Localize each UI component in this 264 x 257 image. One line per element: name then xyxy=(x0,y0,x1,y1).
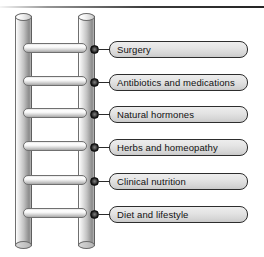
step-label-box-clinical-nutrition: Clinical nutrition xyxy=(109,173,248,190)
step-label-box-diet-and-lifestyle: Diet and lifestyle xyxy=(109,206,248,223)
ladder-rung xyxy=(23,43,87,53)
rail-cap-bottom-left xyxy=(15,241,32,249)
ladder-rung xyxy=(23,208,87,218)
step-label-text: Natural hormones xyxy=(117,110,194,120)
rail-cap-bottom-right xyxy=(78,241,95,249)
ladder-rung xyxy=(23,76,87,86)
step-label-text: Surgery xyxy=(117,45,151,55)
step-label-box-herbs-and-homeopathy: Herbs and homeopathy xyxy=(109,139,248,156)
ladder-rung xyxy=(23,175,87,185)
step-label-box-surgery: Surgery xyxy=(109,41,248,58)
rail-cap-top-right xyxy=(78,13,95,21)
ladder-rung xyxy=(23,141,87,151)
step-label-text: Antibiotics and medications xyxy=(117,78,235,88)
step-label-text: Diet and lifestyle xyxy=(117,210,189,220)
ladder-rung xyxy=(23,108,87,118)
therapeutic-ladder-diagram: Surgery Antibiotics and medications Natu… xyxy=(0,0,264,257)
step-label-box-antibiotics-and-medications: Antibiotics and medications xyxy=(109,74,248,91)
step-label-box-natural-hormones: Natural hormones xyxy=(109,106,248,123)
rail-cap-top-left xyxy=(15,13,32,21)
step-label-text: Herbs and homeopathy xyxy=(117,143,218,153)
step-label-text: Clinical nutrition xyxy=(117,177,186,187)
